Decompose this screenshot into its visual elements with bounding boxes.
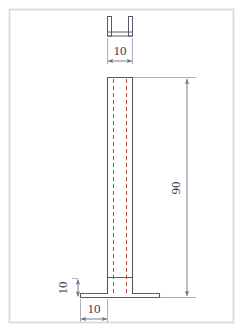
post-height-dimension-text: 90 (168, 182, 183, 195)
front-elevation-view (81, 78, 160, 298)
base-flange-right (133, 278, 160, 298)
post-outline (108, 78, 133, 278)
engineering-drawing: 10 90 10 (0, 0, 243, 335)
post-height-dimension: 90 (133, 78, 196, 298)
base-thickness-dimension-text: 10 (55, 282, 70, 295)
channel-width-dimension: 10 (108, 38, 133, 64)
base-offset-dimension-text: 10 (88, 301, 101, 316)
channel-width-dimension-text: 10 (114, 43, 127, 58)
channel-right-wall (129, 17, 133, 37)
base-flange-left (81, 278, 108, 298)
base-thickness-dimension: 10 (55, 279, 78, 297)
top-plan-view (108, 17, 133, 37)
technical-drawing-canvas: 10 90 10 (0, 0, 243, 335)
channel-left-wall (108, 17, 112, 37)
base-offset-dimension: 10 (81, 299, 108, 322)
